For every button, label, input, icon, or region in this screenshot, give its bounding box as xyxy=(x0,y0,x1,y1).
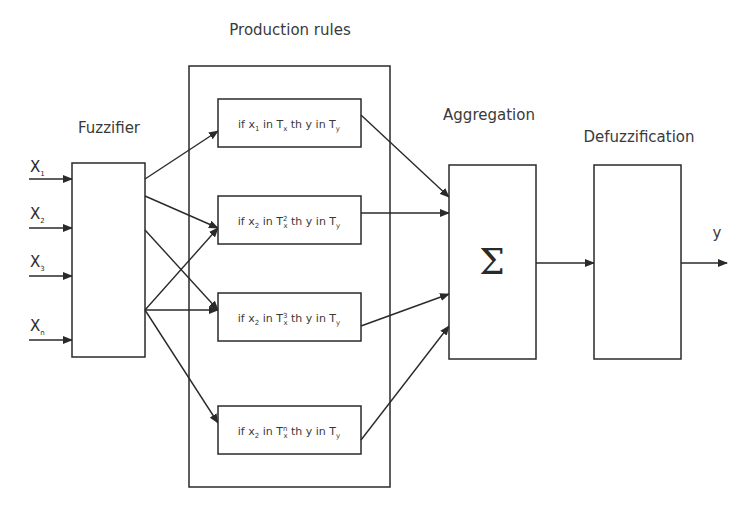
defuzzification-title: Defuzzification xyxy=(583,128,694,146)
input-x2: X2 xyxy=(29,205,72,228)
fuzzifier-title: Fuzzifier xyxy=(78,119,141,137)
svg-text:Xn: Xn xyxy=(30,317,45,337)
fuzzy-system-diagram: Production rules Fuzzifier Aggregation D… xyxy=(0,0,746,505)
input-xn: Xn xyxy=(29,317,72,340)
fuzzifier-box xyxy=(72,163,145,357)
svg-text:X2: X2 xyxy=(30,205,45,225)
svg-text:X3: X3 xyxy=(30,253,45,273)
svg-text:if x2 in T2x th y in Ty: if x2 in T2x th y in Ty xyxy=(238,215,340,230)
svg-text:if x1 in Tx th y in Ty: if x1 in Tx th y in Ty xyxy=(238,118,340,133)
rule-box-3: if x2 in T3x th y in Ty xyxy=(218,293,361,341)
defuzzification-box xyxy=(594,165,681,359)
svg-text:X1: X1 xyxy=(30,158,45,178)
output-label: y xyxy=(713,224,722,242)
sigma-icon: Σ xyxy=(479,241,504,282)
svg-text:if x2 in Tnx th y in Ty: if x2 in Tnx th y in Ty xyxy=(238,425,340,440)
svg-text:if x2 in T3x th y in Ty: if x2 in T3x th y in Ty xyxy=(238,312,340,327)
rule-box-4: if x2 in Tnx th y in Ty xyxy=(218,406,361,454)
input-x3: X3 xyxy=(29,253,72,276)
rule-box-2: if x2 in T2x th y in Ty xyxy=(218,196,361,244)
input-x1: X1 xyxy=(29,158,72,179)
rule-box-1: if x1 in Tx th y in Ty xyxy=(218,99,361,147)
production-rules-title: Production rules xyxy=(229,21,351,39)
aggregation-title: Aggregation xyxy=(443,106,535,124)
